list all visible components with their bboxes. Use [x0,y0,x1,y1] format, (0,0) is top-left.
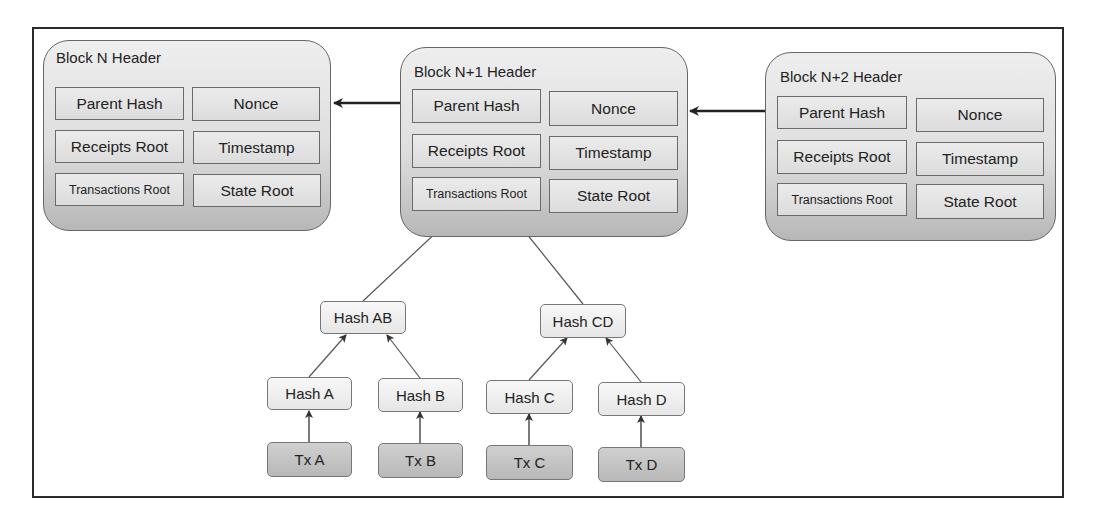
node-tx-d: Tx D [598,447,685,482]
node-hash-cd: Hash CD [540,304,626,338]
node-hash-d: Hash D [598,382,685,416]
block-title: Block N+2 Header [780,68,902,85]
field-receipts-root: Receipts Root [55,130,184,163]
node-hash-ab: Hash AB [320,301,406,334]
field-state-root: State Root [549,179,678,213]
field-timestamp: Timestamp [549,136,678,170]
field-transactions-root: Transactions Root [777,183,907,216]
field-receipts-root: Receipts Root [777,140,907,174]
block-title: Block N Header [56,49,161,66]
field-nonce: Nonce [549,91,678,126]
field-timestamp: Timestamp [916,142,1044,176]
field-state-root: State Root [916,184,1044,219]
field-parent-hash: Parent Hash [777,96,907,129]
field-state-root: State Root [193,174,321,207]
field-parent-hash: Parent Hash [55,87,184,120]
node-hash-b: Hash B [378,378,463,412]
node-tx-b: Tx B [378,443,463,478]
node-tx-a: Tx A [267,442,352,477]
field-transactions-root: Transactions Root [412,177,541,211]
field-receipts-root: Receipts Root [412,134,541,168]
node-hash-a: Hash A [267,377,352,410]
field-transactions-root: Transactions Root [55,173,184,206]
field-timestamp: Timestamp [193,131,320,164]
field-nonce: Nonce [916,98,1044,132]
field-parent-hash: Parent Hash [412,89,541,123]
field-nonce: Nonce [192,87,320,121]
node-hash-c: Hash C [486,380,573,414]
block-title: Block N+1 Header [414,63,536,80]
node-tx-c: Tx C [486,445,573,480]
